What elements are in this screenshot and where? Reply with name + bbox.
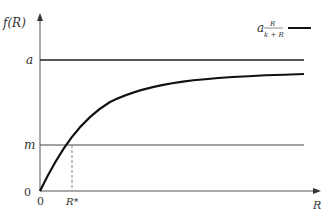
- x-axis-arrow-icon: [313, 188, 321, 194]
- y-zero-label: 0: [24, 186, 31, 199]
- legend: a R k + R: [257, 20, 311, 39]
- y-axis-arrow-icon: [37, 13, 43, 21]
- x-zero-label: 0: [37, 195, 44, 208]
- saturation-curve: [40, 74, 304, 191]
- y-axis-label: f(R): [2, 16, 26, 30]
- legend-denominator: k + R: [264, 31, 285, 39]
- legend-numerator: R: [269, 20, 276, 28]
- m-tick-label: m: [24, 138, 35, 152]
- rstar-tick-label: R*: [65, 196, 79, 207]
- saturation-curve-diagram: f(R) a m 0 0 R* R a R k + R: [0, 0, 334, 224]
- a-tick-label: a: [26, 53, 33, 67]
- x-axis-label: R: [312, 199, 321, 212]
